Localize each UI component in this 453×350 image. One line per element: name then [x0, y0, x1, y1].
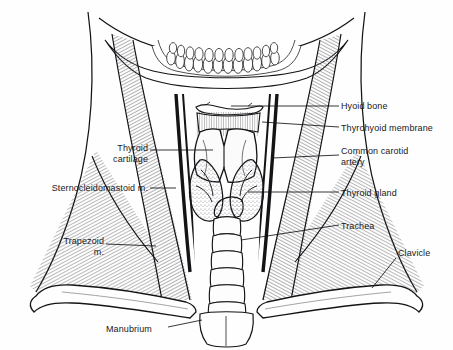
label-sternocleidomastoid: Sternocleidomastoid m. — [16, 183, 148, 194]
label-hyoid-bone: Hyoid bone — [341, 101, 388, 112]
label-thyroid-gland: Thyroid gland — [341, 188, 397, 199]
label-manubrium: Manubrium — [106, 324, 152, 335]
label-thyrohyoid-membrane: Thyrohyoid membrane — [341, 123, 433, 134]
label-clavicle: Clavicle — [398, 248, 430, 259]
label-trapezoid: Trapezoid m. — [44, 236, 104, 257]
label-common-carotid-artery: Common carotid artery — [341, 146, 408, 167]
anatomy-figure: Hyoid bone Thyrohyoid membrane Common ca… — [0, 0, 453, 350]
anatomy-illustration — [0, 0, 453, 350]
trachea — [208, 217, 246, 318]
dental-arch — [152, 40, 301, 76]
manubrium — [200, 312, 253, 347]
label-trachea: Trachea — [341, 221, 374, 232]
label-thyroid-cartilage: Thyroid cartilage — [88, 143, 148, 164]
